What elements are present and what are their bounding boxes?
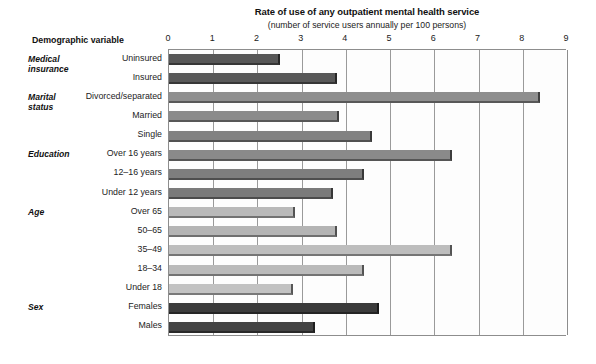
bar-row [169,165,567,184]
x-tick-5: 5 [387,33,392,43]
bar [169,322,315,333]
bar [169,265,364,276]
group-labels: MedicalinsuranceMaritalstatusEducationAg… [0,49,120,336]
group-label: Medicalinsurance [28,54,69,74]
group-label-line: Sex [28,302,43,312]
x-tick-7: 7 [475,33,480,43]
chart-title-block: Rate of use of any outpatient mental hea… [168,6,566,31]
group-label: Maritalstatus [28,92,56,112]
bar-row [169,222,567,241]
x-tick-4: 4 [342,33,347,43]
bar [169,226,337,237]
bar [169,150,452,161]
plot-area [168,49,566,336]
bar-row [169,203,567,222]
group-label: Sex [28,302,43,312]
chart-subtitle: (number of service users annually per 10… [168,19,566,31]
x-tick-3: 3 [298,33,303,43]
x-tick-0: 0 [165,33,170,43]
bar [169,303,379,314]
gridline-9 [567,50,568,335]
group-label: Education [28,149,70,159]
bar-row [169,280,567,299]
bar [169,284,293,295]
bar-row [169,260,567,279]
bar-row [169,107,567,126]
bar-row [169,69,567,88]
x-tick-9: 9 [563,33,568,43]
bar [169,131,372,142]
chart-title: Rate of use of any outpatient mental hea… [168,6,566,18]
bar [169,207,295,218]
bar-row [169,299,567,318]
bar-series [169,50,566,335]
x-axis-baseline [168,335,566,336]
bar-row [169,184,567,203]
group-label-line: status [28,102,56,112]
bar [169,92,540,103]
x-tick-6: 6 [431,33,436,43]
bar-row [169,241,567,260]
group-label-line: Education [28,149,70,159]
bar-row [169,88,567,107]
x-tick-8: 8 [519,33,524,43]
x-tick-1: 1 [210,33,215,43]
x-axis-tick-labels: 0123456789 [0,33,596,47]
bar-row [169,146,567,165]
bar-row [169,127,567,146]
group-label-line: insurance [28,64,69,74]
bar [169,188,333,199]
group-label-line: Age [28,207,44,217]
group-label-line: Marital [28,92,56,102]
bar [169,111,339,122]
bar [169,73,337,84]
bar [169,54,280,65]
chart-container: Rate of use of any outpatient mental hea… [0,0,596,364]
bar [169,169,364,180]
bar-row [169,50,567,69]
group-label: Age [28,207,44,217]
bar [169,245,452,256]
x-tick-2: 2 [254,33,259,43]
group-label-line: Medical [28,54,69,64]
